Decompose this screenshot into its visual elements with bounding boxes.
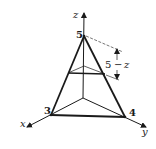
vertex-apex <box>83 35 86 38</box>
dimension-label-minus: − <box>114 60 122 70</box>
slice-front-edge <box>68 73 105 74</box>
edge-x-to-y <box>51 115 125 117</box>
y-intercept-label: 4 <box>129 108 136 118</box>
edge-apex-to-y <box>84 36 125 117</box>
z-axis-label: z <box>73 10 78 20</box>
x-axis <box>27 98 83 127</box>
x-intercept-label: 3 <box>44 106 51 116</box>
edge-apex-to-x <box>51 36 84 115</box>
dimension-label-5: 5 <box>105 60 111 70</box>
tetrahedron-figure: z x y 5 3 4 5 − z <box>0 0 156 149</box>
y-axis <box>83 98 146 127</box>
x-axis-label: x <box>20 119 26 129</box>
y-axis-label: y <box>142 127 148 137</box>
z-axis <box>83 13 84 98</box>
dimension-label-z: z <box>124 60 129 70</box>
vertex-y <box>124 116 127 119</box>
apex-label: 5 <box>76 30 83 40</box>
